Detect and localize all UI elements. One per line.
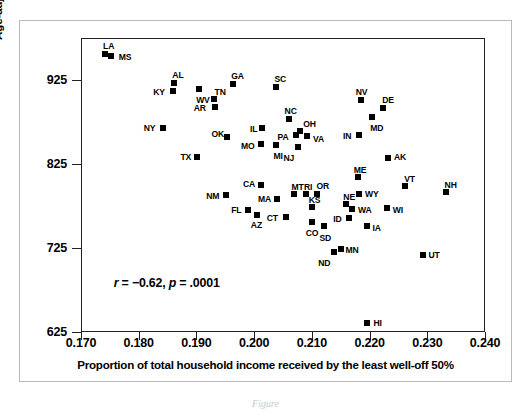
scatter-point-label: AZ (251, 220, 262, 230)
x-axis-tick-label: 0.230 (397, 336, 457, 350)
scatter-point (273, 142, 279, 148)
y-axis-tick-label: 725 (27, 241, 67, 255)
scatter-point (212, 104, 218, 110)
scatter-point-label: ND (318, 258, 330, 268)
y-axis-tick (72, 80, 81, 81)
scatter-point (356, 191, 362, 197)
scatter-point-label: NM (206, 191, 219, 201)
scatter-point (380, 105, 386, 111)
scatter-point-label: MS (119, 52, 132, 62)
scatter-point (293, 132, 299, 138)
scatter-point (364, 223, 370, 229)
scatter-point (273, 84, 279, 90)
scatter-point (346, 215, 352, 221)
scatter-point-label: CT (267, 213, 278, 223)
scatter-point-label: VA (313, 134, 324, 144)
y-axis-tick-label: 825 (27, 157, 67, 171)
scatter-point-label: MD (370, 123, 383, 133)
scatter-point-label: WI (393, 205, 403, 215)
scatter-point-label: NJ (283, 153, 294, 163)
scatter-point-label: WY (365, 189, 379, 199)
plot-area: LAMSALKYWVGATNARSCNVDEMDNCNYILOHPAVAINOK… (81, 38, 485, 332)
scatter-point (274, 196, 280, 202)
scatter-point (349, 206, 355, 212)
scatter-point (364, 320, 370, 326)
scatter-point (309, 219, 315, 225)
scatter-point (385, 155, 391, 161)
y-axis-tick (72, 332, 81, 333)
scatter-point-label: AL (172, 70, 183, 80)
scatter-point-label: AK (394, 152, 406, 162)
scatter-point (331, 249, 337, 255)
scatter-point-label: OK (211, 129, 224, 139)
scatter-point (304, 133, 310, 139)
y-axis-title: Age-adjusted total mortality per 100,000 (0, 0, 4, 58)
scatter-point-label: MI (273, 151, 282, 161)
scatter-point-label: TX (180, 152, 191, 162)
scatter-point-label: OH (303, 119, 316, 129)
scatter-point (230, 81, 236, 87)
scatter-point-label: NH (445, 180, 457, 190)
scatter-point-label: MA (258, 194, 271, 204)
x-axis-tick-label: 0.240 (455, 336, 515, 350)
scatter-point-label: ID (333, 214, 341, 224)
scatter-point (258, 141, 264, 147)
x-axis-tick-label: 0.210 (282, 336, 342, 350)
scatter-point (108, 53, 114, 59)
scatter-point-label: VT (404, 174, 415, 184)
scatter-point (384, 205, 390, 211)
scatter-point-label: NC (285, 106, 297, 116)
x-axis-title: Proportion of total household income rec… (19, 358, 512, 371)
scatter-point (420, 252, 426, 258)
scatter-point-label: SD (319, 233, 331, 243)
x-axis-tick-label: 0.180 (109, 336, 169, 350)
scatter-point-label: UT (429, 250, 440, 260)
scatter-point-label: GA (231, 71, 244, 81)
scatter-point-label: NV (356, 87, 368, 97)
scatter-point-label: SC (274, 74, 286, 84)
scatter-point-label: RI (304, 182, 312, 192)
scatter-point (258, 182, 264, 188)
correlation-annotation: r = −0.62, p = .0001 (114, 276, 220, 290)
scatter-point (223, 192, 229, 198)
scatter-point-label: HI (374, 318, 382, 328)
y-axis-tick (72, 164, 81, 165)
scatter-point (224, 134, 230, 140)
scatter-point-label: CA (243, 179, 255, 189)
scatter-point-label: IN (343, 131, 351, 141)
scatter-point (321, 223, 327, 229)
x-axis-tick-label: 0.200 (224, 336, 284, 350)
scatter-point-label: KS (309, 195, 321, 205)
scatter-point-label: DE (382, 95, 394, 105)
x-axis-tick-label: 0.220 (340, 336, 400, 350)
scatter-point (259, 125, 265, 131)
scatter-point (295, 144, 301, 150)
scatter-point (171, 80, 177, 86)
scatter-point (356, 132, 362, 138)
scatter-point (196, 86, 202, 92)
scatter-point-label: MN (346, 245, 359, 255)
scatter-point-label: IL (250, 124, 257, 134)
figure-container: Age-adjusted total mortality per 100,000… (0, 0, 531, 415)
scatter-point-label: OR (316, 181, 329, 191)
y-axis-tick (72, 248, 81, 249)
stat-value: = .0001 (176, 276, 220, 290)
scatter-point-label: MO (241, 141, 255, 151)
scatter-point-label: LA (103, 41, 114, 51)
scatter-point-label: CO (306, 228, 319, 238)
scatter-point-label: TN (215, 87, 226, 97)
scatter-point (286, 116, 292, 122)
scatter-point-label: WA (358, 205, 372, 215)
scatter-point-label: MT (291, 182, 303, 192)
scatter-point (194, 154, 200, 160)
scatter-point (254, 212, 260, 218)
scatter-point-label: ME (354, 165, 367, 175)
stat-symbol: p (169, 276, 176, 290)
scatter-point-label: KY (153, 87, 165, 97)
scatter-point-label: PA (278, 132, 289, 142)
figure-caption: Figure (0, 398, 531, 409)
scatter-point (283, 214, 289, 220)
scatter-point-label: NE (343, 192, 355, 202)
stat-value: = −0.62, (118, 276, 168, 290)
y-axis-tick-label: 925 (27, 73, 67, 87)
